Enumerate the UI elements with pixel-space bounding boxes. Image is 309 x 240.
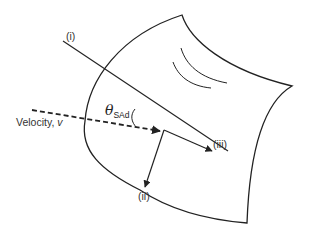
- angle-subscript: SAd: [113, 110, 129, 120]
- angle-arc: [132, 109, 137, 128]
- line-i: [63, 41, 228, 151]
- angle-label: θSAd: [105, 104, 130, 121]
- arrow-ii: [145, 130, 164, 187]
- velocity-variable: v: [57, 116, 62, 128]
- crease-mark-2: [173, 62, 211, 88]
- velocity-label-text: Velocity,: [16, 116, 57, 128]
- velocity-label: Velocity, v: [16, 116, 63, 128]
- crease-mark-1: [181, 48, 227, 83]
- label-i: (i): [66, 30, 75, 42]
- label-ii: (ii): [138, 190, 150, 202]
- label-iii: (iii): [213, 138, 227, 150]
- arrow-iii: [164, 130, 212, 151]
